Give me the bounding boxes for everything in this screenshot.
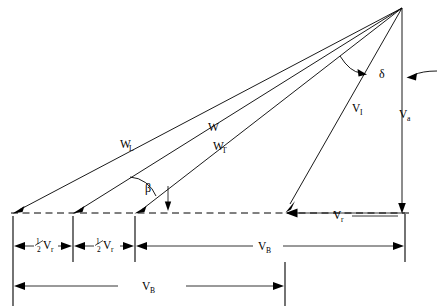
delta-pointer-left-arrowhead [358,69,368,77]
vector-v-axial-arrowhead [398,203,406,214]
dim-half-vr-first-left-arrowhead [14,242,25,250]
beta-indicator-arrowhead [165,202,171,212]
label-v-axial-subscript: a [407,114,411,123]
label-w-leading: W L [120,138,134,153]
label-v-rotational-subscript: r [341,215,344,224]
label-vb-lower: V B [142,280,155,295]
vector-v-rotational-arrowhead [286,209,298,218]
dimension-ticks [13,214,405,306]
label-v-induced: V I [352,102,363,117]
dim-vb-lower-right-arrowhead [273,282,284,290]
label-v-axial: V a [399,108,411,123]
dim-vb-upper-right-arrowhead [393,242,404,250]
label-beta: β [145,181,151,195]
label-vb-upper: V B [258,240,271,255]
delta-pointer-right [407,71,438,81]
beta-angle-arc [130,177,156,196]
diagram-root: W W L W T V I V a V r β δ [0,0,438,306]
delta-pointer-right-curve [414,71,437,75]
delta-pointer-right-arrowhead [407,73,418,81]
beta-indicator-arrow [165,186,171,211]
label-half-vr-first-denominator: 2 [37,245,41,254]
vector-w-leading-arrowhead [13,206,25,214]
delta-pointer-left [340,56,367,77]
label-delta: δ [379,67,385,81]
label-w-resultant-text: W [208,121,219,133]
dim-half-vr-first-right-arrowhead [61,242,72,250]
label-w-resultant: W [208,121,219,133]
dim-half-vr-second-left-arrowhead [74,242,85,250]
label-v-rotational: V r [333,209,344,224]
dim-vb-lower-left-arrowhead [14,282,25,290]
vector-diagram: W W L W T V I V a V r β δ [0,0,438,306]
label-half-vr-first-subscript: r [51,245,54,254]
label-v-induced-subscript: I [360,108,363,117]
vector-w-resultant-arrowhead [73,206,85,214]
vector-w-trailing-shaft [142,8,402,210]
label-vb-lower-subscript: B [150,286,155,295]
label-half-vr-first: 1 2 V r [35,237,54,254]
label-w-leading-subscript: L [129,144,134,153]
label-w-trailing-subscript: T [222,146,227,155]
vector-group-relative-velocities [13,8,406,214]
label-vb-upper-subscript: B [266,246,271,255]
label-half-vr-second-subscript: r [111,245,114,254]
dim-half-vr-second-right-arrowhead [123,242,134,250]
dim-vb-upper-left-arrowhead [136,242,147,250]
label-half-vr-second: 1 2 V r [95,237,114,254]
label-half-vr-second-denominator: 2 [97,245,101,254]
